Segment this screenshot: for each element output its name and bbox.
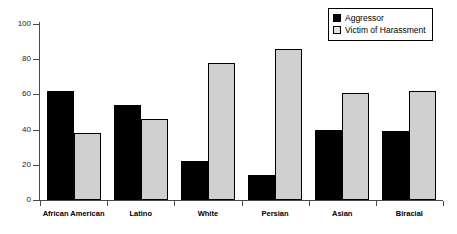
x-axis-tick [443, 201, 444, 206]
bar-victim-biracial [409, 91, 436, 200]
x-axis-category-label: Latino [107, 209, 174, 218]
legend-item-aggressor: Aggressor [333, 12, 426, 24]
bar-aggressor-asian [315, 130, 342, 200]
y-axis-tick-value: 60 [3, 90, 31, 98]
bar-aggressor-latino [114, 105, 141, 200]
bar-aggressor-biracial [382, 131, 409, 200]
x-axis-tick [107, 201, 108, 206]
y-axis-tick [33, 59, 39, 60]
x-axis-tick [376, 201, 377, 206]
y-axis-tick-value: 0 [3, 196, 31, 204]
bar-aggressor-white [181, 161, 208, 200]
y-axis-tick [33, 200, 39, 201]
legend-label-victim: Victim of Harassment [345, 25, 426, 35]
y-axis-tick [33, 130, 39, 131]
plot-area [40, 24, 440, 200]
bar-victim-white [208, 63, 235, 200]
bar-aggressor-persian [248, 175, 275, 200]
chart-legend: Aggressor Victim of Harassment [328, 8, 433, 41]
legend-swatch-icon-aggressor [333, 14, 341, 22]
x-axis-tick [40, 201, 41, 206]
bar-aggressor-african-american [47, 91, 74, 200]
x-axis-category-label: African American [40, 209, 107, 218]
bar-victim-african-american [74, 133, 101, 200]
bar-chart: 100806040200 African AmericanLatinoWhite… [0, 0, 457, 234]
y-axis-tick-value: 80 [3, 55, 31, 63]
y-axis-tick-value: 100 [3, 20, 31, 28]
legend-swatch-icon-victim [333, 26, 341, 34]
y-axis-tick-label: 0 [0, 196, 31, 204]
bar-victim-latino [141, 119, 168, 200]
y-axis-tick-value: 20 [3, 161, 31, 169]
y-axis-tick [33, 165, 39, 166]
y-axis-tick-label: 100 [0, 20, 31, 28]
bar-victim-asian [342, 93, 369, 200]
y-axis-tick [33, 94, 39, 95]
x-axis-category-label: Persian [242, 209, 309, 218]
y-axis-tick-label: 40 [0, 126, 31, 134]
bar-victim-persian [275, 49, 302, 200]
y-axis-tick-label: 80 [0, 55, 31, 63]
y-axis-tick-label: 20 [0, 161, 31, 169]
legend-item-victim: Victim of Harassment [333, 24, 426, 36]
x-axis-category-label: Asian [309, 209, 376, 218]
x-axis-tick [174, 201, 175, 206]
y-axis-tick [33, 24, 39, 25]
y-axis-tick-label: 60 [0, 90, 31, 98]
legend-label-aggressor: Aggressor [345, 13, 384, 23]
x-axis-category-label: White [174, 209, 241, 218]
y-axis-tick-value: 40 [3, 126, 31, 134]
x-axis-tick [242, 201, 243, 206]
x-axis-tick [309, 201, 310, 206]
x-axis-category-label: Biracial [376, 209, 443, 218]
